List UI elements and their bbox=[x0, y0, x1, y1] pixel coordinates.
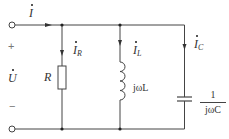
voltage-symbol: U bbox=[8, 72, 17, 84]
source-current-label: I bbox=[29, 7, 33, 19]
circuit-wires bbox=[0, 0, 229, 139]
junction-dot bbox=[118, 23, 121, 26]
resistor-current-symbol: I bbox=[73, 44, 77, 56]
arrow-right-icon bbox=[45, 23, 52, 27]
voltage-label: U bbox=[8, 72, 17, 84]
bottom-terminal bbox=[9, 126, 15, 132]
capacitor-current-label: IC bbox=[194, 38, 203, 52]
capacitor-impedance-numerator: 1 bbox=[211, 90, 216, 100]
capacitor-impedance-denominator: jωC bbox=[205, 105, 221, 115]
inductor-label: jωL bbox=[133, 83, 148, 93]
junction-dot bbox=[118, 127, 121, 130]
capacitor-current-subscript: C bbox=[198, 43, 203, 52]
junction-dot bbox=[60, 127, 63, 130]
resistor-current-subscript: R bbox=[77, 49, 82, 58]
arrow-down-icon bbox=[183, 44, 187, 50]
arrow-down-icon bbox=[60, 50, 64, 56]
resistor-current-label: IR bbox=[73, 44, 82, 58]
top-terminal bbox=[9, 22, 15, 28]
inductor-current-label: IL bbox=[133, 44, 141, 58]
source-current-symbol: I bbox=[29, 7, 33, 19]
capacitor-current-symbol: I bbox=[194, 38, 198, 50]
circuit-diagram: I + U − IR R IL jωL IC 1 jωC bbox=[0, 0, 229, 139]
inductor-symbol bbox=[120, 62, 125, 100]
resistor-label: R bbox=[44, 71, 51, 83]
inductor-current-symbol: I bbox=[133, 44, 137, 56]
resistor-symbol bbox=[58, 66, 66, 89]
inductor-current-subscript: L bbox=[137, 49, 141, 58]
minus-sign: − bbox=[9, 101, 15, 112]
arrow-down-icon bbox=[118, 40, 122, 46]
plus-sign: + bbox=[8, 41, 14, 52]
junction-dot bbox=[60, 23, 63, 26]
fraction-bar bbox=[200, 102, 226, 103]
capacitor-impedance: 1 jωC bbox=[200, 90, 226, 115]
